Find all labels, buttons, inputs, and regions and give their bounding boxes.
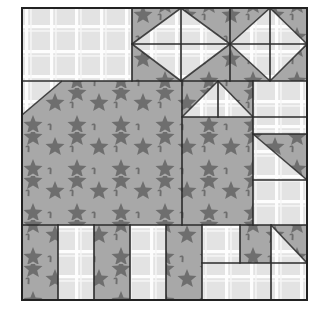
half-square-triangle-r2-c2 — [181, 44, 230, 81]
house-right-star-panel — [182, 117, 253, 225]
half-square-triangle-r2-c4 — [270, 44, 307, 81]
fence-post-star-3 — [166, 225, 202, 300]
roof-left-corner-triangle — [22, 81, 62, 115]
side-wall-plaid-rectangle — [253, 180, 307, 225]
half-square-triangle-r1-c2 — [181, 8, 230, 44]
fence-post-plaid-2 — [130, 225, 166, 300]
quilt-block-svg — [0, 0, 329, 318]
window-star-square — [240, 225, 271, 263]
patch-layer — [22, 8, 307, 300]
half-square-triangle-r2-c3 — [230, 44, 270, 81]
fence-post-star-2 — [94, 225, 130, 300]
door-plaid-square — [202, 225, 240, 263]
half-square-triangle-r1-c3 — [230, 8, 270, 44]
roof-star-body — [62, 81, 182, 115]
half-square-triangle-r1-c4 — [270, 8, 307, 44]
chimney-plaid-square — [253, 81, 307, 134]
half-square-triangle-r1-c1 — [132, 8, 181, 44]
path-plaid-rectangle — [202, 263, 271, 300]
step-corner-triangle — [271, 225, 307, 263]
side-wall-corner-triangle — [253, 134, 307, 180]
path-plaid-right-rectangle — [271, 263, 307, 300]
house-front-star-panel — [22, 115, 182, 225]
fence-post-plaid-1 — [58, 225, 94, 300]
quilt-block-canvas — [0, 0, 329, 318]
half-square-triangle-r3-c1 — [182, 81, 218, 117]
half-square-triangle-r3-c2 — [218, 81, 253, 117]
fence-post-star-1 — [22, 225, 58, 300]
half-square-triangle-r2-c1 — [132, 44, 181, 81]
sky-left-plaid-rectangle — [22, 8, 132, 81]
